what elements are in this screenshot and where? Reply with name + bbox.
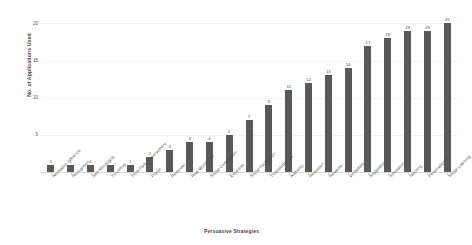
plot-area: 111112344579111213141718191920 [41,16,457,172]
bar-value-label: 20 [445,17,450,22]
bar[interactable] [305,83,312,172]
bar-value-label: 18 [385,32,390,37]
x-axis-title: Persuasive Strategies [0,228,463,234]
x-label-slot: Praise [140,173,160,225]
bar-slot[interactable]: 18 [378,16,398,172]
x-label-slot: Expertise [219,173,239,225]
y-axis-ticks: 2015105 [20,0,38,245]
x-label-slot: Suggestion [358,173,378,225]
bar-value-label: 9 [268,99,270,104]
x-label-slot: Real World Feel [180,173,200,225]
x-label-slot: Reminder [160,173,180,225]
x-label-slot: Verifiability [338,173,358,225]
bar-value-label: 4 [188,136,190,141]
bar-value-label: 5 [228,129,230,134]
bar-slot[interactable]: 1 [100,16,120,172]
bar-value-label: 3 [169,144,171,149]
bar[interactable] [444,23,451,172]
bar-value-label: 14 [346,62,351,67]
bar-value-label: 4 [208,136,210,141]
bar[interactable] [186,142,193,172]
bar-slot[interactable]: 20 [437,16,457,172]
x-label-slot: Social Learning [437,173,457,225]
y-tick-label: 15 [22,58,38,63]
bar-value-label: 19 [405,25,410,30]
y-tick-label: 10 [22,95,38,100]
bar[interactable] [246,120,253,172]
bar-slot[interactable]: 19 [417,16,437,172]
bar-value-label: 1 [50,159,52,164]
bar-value-label: 12 [306,77,311,82]
bar-slot[interactable]: 11 [279,16,299,172]
bar[interactable] [404,31,411,172]
bar-slot[interactable]: 12 [299,16,319,172]
bar[interactable] [384,38,391,172]
x-label-slot: Simulation [378,173,398,225]
bar-slot[interactable]: 14 [338,16,358,172]
x-label-slot: Social Comparison [200,173,220,225]
x-label-slot: Normative Influence [41,173,61,225]
bar-value-label: 7 [248,114,250,119]
x-label-slot: Tunneling [100,173,120,225]
x-label-slot: Trustworthiness [259,173,279,225]
x-label-slot: Rewards [318,173,338,225]
bar-slot[interactable]: 1 [120,16,140,172]
bar-slot[interactable]: 19 [398,16,418,172]
bar-slot[interactable]: 4 [180,16,200,172]
x-label-slot: Tailoring [398,173,418,225]
bar-series: 111112344579111213141718191920 [41,16,457,172]
x-label-slot: Social Facilitation [239,173,259,225]
bar-slot[interactable]: 4 [200,16,220,172]
bar-value-label: 17 [366,40,371,45]
bar[interactable] [87,165,94,172]
bar[interactable] [345,68,352,172]
bar-slot[interactable]: 1 [41,16,61,172]
x-label-slot: Third Party Endorsement [120,173,140,225]
bar[interactable] [325,75,332,172]
bar[interactable] [166,150,173,172]
y-tick-label: 20 [22,21,38,26]
x-axis-tick-labels: Normative InfluenceRecognitionSelf-Monit… [41,173,457,225]
bar-value-label: 11 [286,84,290,89]
bar[interactable] [424,31,431,172]
x-label-slot: Recognition [61,173,81,225]
bar-slot[interactable]: 7 [239,16,259,172]
bar-slot[interactable]: 1 [81,16,101,172]
bar-value-label: 1 [129,159,131,164]
bar-slot[interactable]: 9 [259,16,279,172]
bar-slot[interactable]: 5 [219,16,239,172]
y-tick-label: 5 [22,132,38,137]
bar-value-label: 13 [326,69,331,74]
x-label-slot: Authority [279,173,299,225]
x-label-slot: Self-Monitoring [81,173,101,225]
x-label-slot: Personalization [417,173,437,225]
bar-value-label: 19 [425,25,430,30]
bar-slot[interactable]: 13 [318,16,338,172]
bar[interactable] [364,46,371,172]
x-label-slot: Reduction [299,173,319,225]
bar-slot[interactable]: 17 [358,16,378,172]
